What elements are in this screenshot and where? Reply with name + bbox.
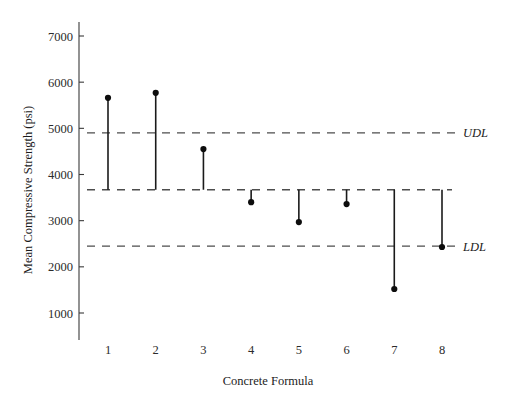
data-point-group-6 — [343, 190, 349, 207]
y-tick-label: 6000 — [48, 76, 73, 90]
data-marker — [343, 201, 349, 207]
data-point-group-7 — [391, 190, 397, 292]
x-axis-title: Concrete Formula — [223, 374, 314, 388]
data-point-group-8 — [439, 190, 445, 250]
x-tick-label-1: 1 — [105, 343, 111, 357]
reference-label-ldl: LDL — [462, 240, 486, 254]
data-point-group-3 — [200, 146, 206, 190]
x-tick-label-6: 6 — [343, 343, 349, 357]
data-marker — [105, 95, 111, 101]
axes-layer: 1000200030004000500060007000 — [48, 22, 84, 340]
y-tick-label: 3000 — [48, 214, 73, 228]
x-tick-label-4: 4 — [248, 343, 255, 357]
data-marker — [296, 219, 302, 225]
reference-lines-layer: UDLLDL — [87, 126, 488, 253]
data-marker — [200, 146, 206, 152]
y-tick-label: 4000 — [48, 168, 73, 182]
data-point-group-5 — [296, 190, 302, 225]
x-tick-label-5: 5 — [296, 343, 302, 357]
x-tick-label-8: 8 — [439, 343, 445, 357]
x-tick-label-3: 3 — [200, 343, 206, 357]
data-stems-layer — [105, 90, 445, 292]
data-point-group-1 — [105, 95, 111, 190]
data-marker — [391, 286, 397, 292]
data-marker — [248, 199, 254, 205]
chart-container: UDLLDL 1000200030004000500060007000 1234… — [0, 0, 506, 408]
y-tick-label: 1000 — [48, 307, 73, 321]
x-tick-label-7: 7 — [391, 343, 397, 357]
y-tick-label: 2000 — [48, 260, 73, 274]
axis-labels-layer: 12345678Concrete FormulaMean Compressive… — [21, 106, 445, 388]
reference-label-udl: UDL — [463, 126, 488, 140]
y-axis-title: Mean Compressive Strength (psi) — [21, 106, 35, 274]
x-tick-label-2: 2 — [153, 343, 159, 357]
data-point-group-2 — [153, 90, 159, 190]
y-tick-label: 7000 — [48, 30, 73, 44]
data-point-group-4 — [248, 190, 254, 206]
data-marker — [153, 90, 159, 96]
y-tick-label: 5000 — [48, 122, 73, 136]
data-marker — [439, 244, 445, 250]
control-chart-plot: UDLLDL 1000200030004000500060007000 1234… — [0, 0, 506, 408]
